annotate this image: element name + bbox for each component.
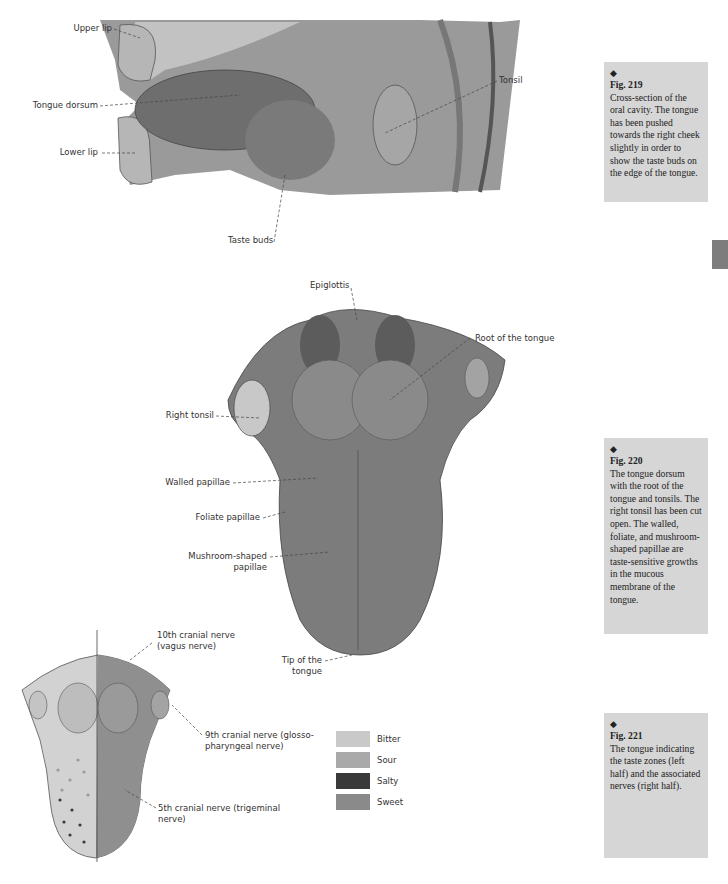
caption-fig-219: ◆ Fig. 219 Cross-section of the oral cav… xyxy=(604,62,708,202)
caption-text: The tongue dorsum with the root of the t… xyxy=(610,468,702,605)
diamond-icon: ◆ xyxy=(610,68,702,79)
label-mushroom-shaped: Mushroom-shaped xyxy=(150,551,267,562)
label-walled-papillae: Walled papillae xyxy=(130,477,230,488)
legend-label-bitter: Bitter xyxy=(377,734,401,744)
legend-label-salty: Salty xyxy=(377,776,398,786)
caption-text: Cross-section of the oral cavity. The to… xyxy=(610,92,700,179)
diamond-icon: ◆ xyxy=(610,719,702,730)
label-epiglottis: Epiglottis xyxy=(310,280,350,291)
caption-fig-221: ◆ Fig. 221 The tongue indicating the tas… xyxy=(604,713,708,858)
figure-number: Fig. 219 xyxy=(610,79,702,92)
legend-swatch-salty xyxy=(336,773,370,789)
label-tonsil: Tonsil xyxy=(499,75,523,86)
legend-swatch-sweet xyxy=(336,794,370,810)
label-5th-nerve: 5th cranial nerve (trigeminal xyxy=(158,803,280,814)
diamond-icon: ◆ xyxy=(610,444,702,455)
label-root-of-tongue: Root of the tongue xyxy=(475,333,554,344)
label-10th-nerve: 10th cranial nerve xyxy=(157,630,235,641)
figure-number: Fig. 221 xyxy=(610,730,702,743)
label-right-tonsil: Right tonsil xyxy=(130,410,214,421)
label-glossopharyngeal-nerve: pharyngeal nerve) xyxy=(205,741,284,752)
label-lower-lip: Lower lip xyxy=(16,147,98,158)
legend-swatch-bitter xyxy=(336,731,370,747)
label-tip-of-the: Tip of the xyxy=(260,655,322,666)
legend-label-sweet: Sweet xyxy=(377,797,403,807)
caption-text: The tongue indicating the taste zones (l… xyxy=(610,743,700,792)
tongue-dorsum-illustration xyxy=(228,309,505,655)
label-upper-lip: Upper lip xyxy=(30,23,112,34)
label-tongue-dorsum: Tongue dorsum xyxy=(16,100,98,111)
legend-label-sour: Sour xyxy=(377,755,396,765)
oral-cavity-illustration xyxy=(100,20,520,195)
label-trigeminal-nerve: nerve) xyxy=(158,814,186,825)
legend-swatch-sour xyxy=(336,752,370,768)
label-9th-nerve: 9th cranial nerve (glosso- xyxy=(205,730,314,741)
label-vagus-nerve: (vagus nerve) xyxy=(157,641,216,652)
label-papillae: papillae xyxy=(150,562,267,573)
taste-zones-illustration xyxy=(22,630,170,862)
label-taste-buds: Taste buds xyxy=(228,235,273,246)
label-tongue: tongue xyxy=(260,666,322,677)
label-foliate-papillae: Foliate papillae xyxy=(150,512,260,523)
caption-fig-220: ◆ Fig. 220 The tongue dorsum with the ro… xyxy=(604,438,708,634)
chapter-thumb-tab xyxy=(712,240,728,269)
figure-number: Fig. 220 xyxy=(610,455,702,468)
